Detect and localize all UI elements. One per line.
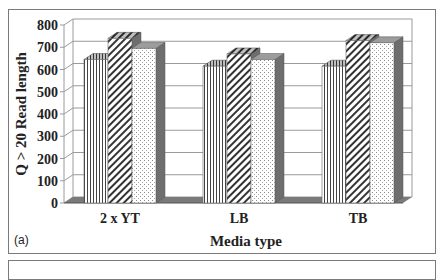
- x-axis-labels: 2 x YTLBTB: [100, 211, 367, 226]
- bar: [251, 53, 284, 203]
- x-axis-title: Media type: [210, 233, 282, 249]
- y-tick-label: 400: [37, 107, 58, 122]
- y-tick-label: 200: [37, 152, 58, 167]
- y-tick-label: 0: [51, 196, 58, 211]
- x-category-label: TB: [349, 211, 368, 226]
- bar: [132, 42, 165, 203]
- y-axis: 0100200300400500600700800: [37, 18, 64, 211]
- y-tick-label: 800: [37, 18, 58, 33]
- y-tick-label: 100: [37, 174, 58, 189]
- bars: [84, 32, 403, 203]
- y-tick-label: 600: [37, 63, 58, 78]
- bar: [370, 37, 403, 203]
- y-axis-title: Q > 20 Read length: [13, 52, 29, 176]
- y-tick-label: 700: [37, 40, 58, 55]
- panel-label: (a): [14, 233, 29, 247]
- x-category-label: 2 x YT: [100, 211, 141, 226]
- x-category-label: LB: [230, 211, 249, 226]
- y-tick-label: 300: [37, 129, 58, 144]
- y-tick-label: 500: [37, 85, 58, 100]
